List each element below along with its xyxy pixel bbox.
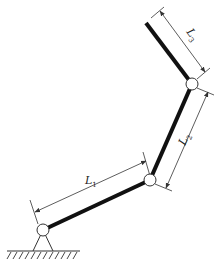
link-2 bbox=[150, 84, 192, 180]
manipulator-diagram: L1 L2 L3 bbox=[0, 0, 222, 273]
label-l1: L1 bbox=[84, 174, 97, 189]
joint-wrist bbox=[186, 78, 198, 90]
joint-elbow bbox=[144, 174, 156, 186]
label-l2: L2 bbox=[175, 131, 194, 149]
joint-base bbox=[37, 224, 49, 236]
label-l3: L3 bbox=[181, 25, 201, 44]
